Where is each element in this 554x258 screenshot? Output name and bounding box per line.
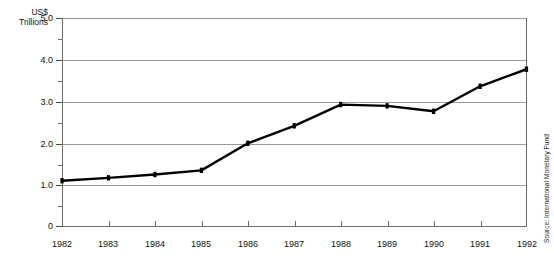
x-tick-label-1991: 1991	[460, 240, 500, 249]
plot-canvas	[0, 0, 554, 258]
data-point-1982	[60, 178, 63, 183]
x-tick-label-1982: 1982	[42, 240, 82, 249]
data-point-1990	[432, 109, 435, 114]
data-point-1991	[478, 84, 481, 89]
y-tick-label-3: 3.0	[29, 98, 53, 107]
chart-figure: Japan's Gross National Product (GNP) US$…	[0, 0, 554, 258]
data-point-1985	[200, 168, 203, 173]
y-tick-label-2: 2.0	[29, 140, 53, 149]
x-tick-label-1988: 1988	[321, 240, 361, 249]
data-point-1992	[525, 67, 528, 72]
x-tick-label-1992: 1992	[507, 240, 547, 249]
x-tick-label-1984: 1984	[135, 240, 175, 249]
data-markers	[60, 67, 528, 184]
data-point-1986	[246, 141, 249, 146]
y-major-ticks	[56, 19, 62, 227]
y-tick-label-5: 5.0	[29, 14, 53, 23]
data-point-1983	[107, 175, 110, 180]
x-tick-label-1989: 1989	[367, 240, 407, 249]
x-tick-label-1987: 1987	[274, 240, 314, 249]
y-tick-label-0: 0	[29, 222, 53, 231]
data-point-1989	[386, 103, 389, 108]
data-point-1984	[153, 172, 156, 177]
x-tick-label-1986: 1986	[228, 240, 268, 249]
y-gridlines	[62, 19, 527, 186]
plot-frame	[62, 18, 527, 227]
data-point-1988	[339, 102, 342, 107]
y-tick-label-1: 1.0	[29, 181, 53, 190]
y-tick-label-4: 4.0	[29, 56, 53, 65]
source-note: Source: International Monetary Fund	[543, 134, 550, 243]
data-point-1987	[293, 123, 296, 128]
x-tick-label-1983: 1983	[88, 240, 128, 249]
x-tick-label-1985: 1985	[181, 240, 221, 249]
x-tick-label-1990: 1990	[414, 240, 454, 249]
